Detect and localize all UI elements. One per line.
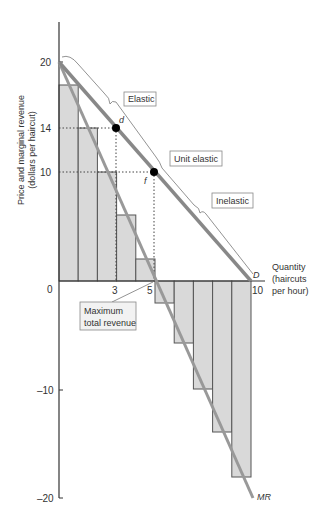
unit-elastic-label: Unit elastic (174, 154, 219, 164)
point-f (150, 168, 158, 176)
xtick-10: 10 (252, 285, 264, 296)
label-curve-mr: MR (257, 492, 271, 502)
max-revenue-line2: total revenue (84, 318, 136, 328)
label-curve-d: D (253, 270, 260, 280)
xtick-5: 5 (147, 285, 153, 296)
elastic-label: Elastic (128, 94, 155, 104)
bar-9 (213, 281, 232, 432)
bar-2 (78, 128, 97, 281)
ytick-0: 0 (47, 284, 53, 295)
ytick-10: 10 (40, 167, 52, 178)
x-axis-title-3: per hour) (272, 286, 309, 296)
bar-10 (232, 281, 251, 477)
x-axis-title-1: Quantity (272, 262, 306, 272)
x-axis-title-2: (haircuts (272, 274, 307, 284)
label-f: f (144, 176, 148, 186)
xtick-3: 3 (112, 285, 118, 296)
ytick-m20: –20 (37, 493, 54, 504)
point-d (112, 124, 120, 132)
chart: d f Elastic Unit elastic Inelastic Maxim… (0, 0, 320, 518)
ytick-20: 20 (40, 57, 52, 68)
ytick-m10: –10 (37, 385, 54, 396)
y-axis-title-1: Price and marginal revenue (16, 95, 26, 205)
bar-1 (59, 85, 78, 281)
label-d: d (119, 115, 125, 125)
y-axis-title-2: (dollars per haircut) (27, 111, 37, 189)
ytick-14: 14 (40, 123, 52, 134)
inelastic-label: Inelastic (216, 196, 250, 206)
max-revenue-line1: Maximum (84, 306, 123, 316)
bar-7 (174, 281, 193, 343)
